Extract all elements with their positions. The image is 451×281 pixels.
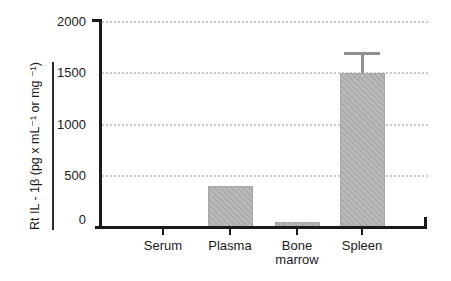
x-category-label: Spleen: [332, 239, 392, 253]
x-category-label: Plasma: [200, 239, 260, 253]
y-axis-label: Rt IL - 1β (pg x mL⁻¹ or mg ⁻¹): [27, 56, 43, 236]
x-tick: [361, 229, 363, 235]
y-tick-label: 1500: [36, 65, 86, 81]
x-axis-end-cap: [424, 217, 427, 229]
x-tick: [229, 229, 231, 235]
y-tick-label: 2000: [36, 14, 86, 30]
x-category-label: Serum: [133, 239, 193, 253]
x-tick: [162, 229, 164, 235]
y-axis-label-underline: [52, 62, 54, 230]
bar-chart-figure: Rt IL - 1β (pg x mL⁻¹ or mg ⁻¹) 0 500 10…: [0, 0, 451, 281]
gridline: [102, 21, 428, 23]
x-tick: [296, 229, 298, 235]
x-axis-line: [95, 226, 427, 229]
y-tick-label: 1000: [36, 117, 86, 133]
y-axis-line: [99, 19, 102, 229]
error-bar-stem-spleen: [361, 53, 364, 74]
error-bar-cap-spleen: [344, 52, 380, 55]
y-axis-end-cap: [92, 19, 102, 22]
x-category-label: Bone marrow: [267, 239, 327, 267]
bar-spleen: [340, 73, 385, 227]
y-tick-label: 500: [36, 168, 86, 184]
y-tick-label: 0: [36, 212, 86, 228]
bar-plasma: [208, 186, 253, 227]
